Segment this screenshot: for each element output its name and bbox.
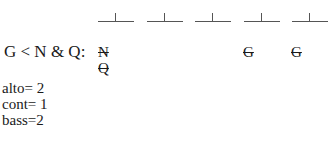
slot-divider <box>212 13 213 22</box>
voice-cont: cont= 1 <box>2 96 48 112</box>
slot-divider <box>164 13 165 22</box>
slot-baseline <box>244 21 280 22</box>
slot-4 <box>244 13 280 22</box>
eliminated-letter-slot5-g: G <box>291 44 302 60</box>
slot-divider <box>309 13 310 22</box>
slot-baseline <box>292 21 328 22</box>
rule-label: G < N & Q: <box>4 43 85 61</box>
slot-2 <box>147 13 183 22</box>
voice-alto: alto= 2 <box>2 80 44 96</box>
eliminated-letter-slot4-g: G <box>243 44 254 60</box>
eliminated-letter-slot1-n: N <box>98 44 109 60</box>
slot-baseline <box>147 21 183 22</box>
slot-1 <box>98 13 134 22</box>
voice-bass: bass=2 <box>2 112 44 128</box>
eliminated-letter-slot1-q: Q <box>98 60 109 76</box>
slot-5 <box>292 13 328 22</box>
slot-divider <box>115 13 116 22</box>
slot-baseline <box>98 21 134 22</box>
slot-baseline <box>195 21 231 22</box>
slot-3 <box>195 13 231 22</box>
slot-divider <box>261 13 262 22</box>
